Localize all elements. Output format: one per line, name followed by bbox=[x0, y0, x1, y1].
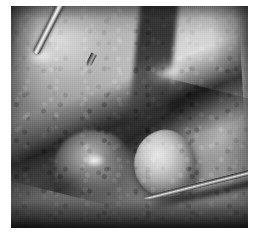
vignette-overlay bbox=[11, 6, 248, 228]
photo-content-group bbox=[11, 6, 248, 228]
surgical-photograph bbox=[11, 6, 248, 228]
page-root bbox=[0, 0, 254, 247]
